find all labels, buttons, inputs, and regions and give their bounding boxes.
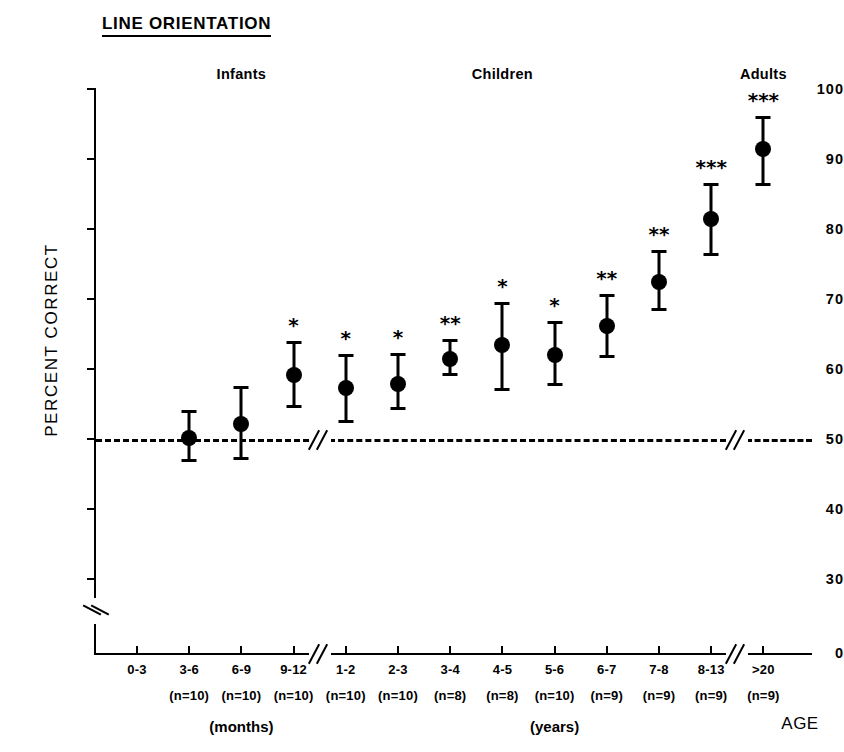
chart-title: LINE ORIENTATION (102, 14, 271, 37)
x-axis-tick (658, 646, 660, 654)
unit-label-months: (months) (209, 718, 273, 735)
error-bar-cap-upper (495, 302, 510, 305)
significance-stars: ** (440, 313, 461, 333)
x-axis-tick (606, 646, 608, 654)
y-axis-break-mark (85, 598, 105, 624)
data-point-marker (651, 274, 667, 290)
error-bar-cap-lower (234, 457, 249, 460)
error-bar-cap-lower (391, 407, 406, 410)
x-axis-label-6-7: 6-7 (597, 662, 616, 677)
significance-stars: * (288, 315, 298, 335)
error-bar-cap-upper (286, 341, 301, 344)
y-axis-tick (87, 368, 96, 370)
x-axis-tick (240, 646, 242, 654)
error-bar-cap-lower (756, 183, 771, 186)
significance-stars: ** (649, 224, 670, 244)
error-bar-cap-lower (443, 373, 458, 376)
significance-stars: * (341, 328, 351, 348)
significance-stars: ** (596, 268, 617, 288)
sample-size-label-3-4: (n=8) (434, 688, 466, 703)
data-point-marker (442, 351, 458, 367)
x-axis-label-4-5: 4-5 (493, 662, 512, 677)
error-bar-cap-upper (391, 353, 406, 356)
y-axis-title: PERCENT CORRECT (42, 230, 62, 450)
chance-line-break-mark (727, 427, 747, 453)
data-point-marker (390, 376, 406, 392)
error-bar-cap-lower (547, 383, 562, 386)
significance-stars: *** (748, 90, 779, 110)
x-axis-tick (293, 646, 295, 654)
error-bar-cap-lower (704, 253, 719, 256)
group-header-infants: Infants (217, 66, 267, 82)
data-point-marker (547, 347, 563, 363)
sample-size-label-6-9: (n=10) (221, 688, 261, 703)
x-axis-label-2-3: 2-3 (388, 662, 407, 677)
sample-size-label-8-13: (n=9) (695, 688, 727, 703)
y-axis-tick (87, 88, 96, 90)
x-axis-label-7-8: 7-8 (649, 662, 668, 677)
x-axis-tick (554, 646, 556, 654)
y-axis-tick (87, 228, 96, 230)
x-axis-title: AGE (781, 714, 818, 734)
data-point-marker (286, 367, 302, 383)
sample-size-label-3-6: (n=10) (169, 688, 209, 703)
sample-size-label-5-6: (n=10) (535, 688, 575, 703)
data-point-marker (599, 318, 615, 334)
data-point-marker (755, 141, 771, 157)
y-axis-tick (87, 508, 96, 510)
data-point-marker (494, 337, 510, 353)
x-axis-label-8-13: 8-13 (698, 662, 725, 677)
error-bar-cap-upper (234, 386, 249, 389)
error-bar-cap-lower (495, 388, 510, 391)
sample-size-label-9-12: (n=10) (274, 688, 314, 703)
group-header-children: Children (472, 66, 533, 82)
error-bar-cap-upper (182, 410, 197, 413)
chance-level-segment (746, 439, 812, 442)
error-bar-cap-upper (599, 294, 614, 297)
line-orientation-figure: LINE ORIENTATION InfantsChildrenAdults P… (0, 0, 844, 752)
y-axis-tick (87, 158, 96, 160)
error-bar-cap-lower (599, 355, 614, 358)
error-bar-cap-upper (652, 250, 667, 253)
sample-size-label-7-8: (n=9) (643, 688, 675, 703)
group-header-adults: Adults (740, 66, 787, 82)
y-axis-tick (87, 298, 96, 300)
sample-size-label-4-5: (n=8) (486, 688, 518, 703)
x-axis-tick (188, 646, 190, 654)
y-axis-tick-label: 60 (760, 361, 844, 377)
x-axis-label-6-9: 6-9 (232, 662, 251, 677)
x-axis-label-1-2: 1-2 (336, 662, 355, 677)
significance-stars: * (549, 295, 559, 315)
chance-level-segment (329, 439, 727, 442)
error-bar-cap-lower (338, 420, 353, 423)
error-bar-cap-lower (286, 405, 301, 408)
x-axis-label-3-4: 3-4 (440, 662, 459, 677)
y-axis-tick-label: 30 (760, 571, 844, 587)
data-point-marker (181, 430, 197, 446)
x-axis-tick (449, 646, 451, 654)
x-axis-tick (345, 646, 347, 654)
sample-size-label-2-3: (n=10) (378, 688, 418, 703)
error-bar-cap-upper (704, 183, 719, 186)
y-axis-tick (87, 578, 96, 580)
y-axis-tick (87, 438, 96, 440)
x-axis-label-9-12: 9-12 (280, 662, 307, 677)
x-axis-break-mark (727, 641, 747, 667)
x-axis-tick (710, 646, 712, 654)
sample-size-label-1-2: (n=10) (326, 688, 366, 703)
x-axis-label->20: >20 (752, 662, 775, 677)
unit-label-years: (years) (530, 718, 579, 735)
significance-stars: * (497, 276, 507, 296)
significance-stars: *** (695, 157, 726, 177)
y-axis-tick-label: 80 (760, 221, 844, 237)
data-point-marker (703, 211, 719, 227)
sample-size-label-6-7: (n=9) (591, 688, 623, 703)
y-axis-line (94, 89, 96, 654)
error-bar-cap-upper (338, 354, 353, 357)
x-axis-break-mark (310, 641, 330, 667)
y-axis-tick-label: 0 (760, 645, 844, 661)
y-axis-tick-label: 70 (760, 291, 844, 307)
x-axis-tick (501, 646, 503, 654)
significance-stars: * (393, 327, 403, 347)
error-bar-cap-upper (547, 321, 562, 324)
